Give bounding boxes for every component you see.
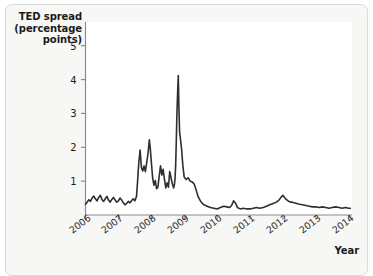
y-tick-label: 1 bbox=[59, 176, 77, 187]
y-tick-label: 3 bbox=[59, 108, 77, 119]
plot-background bbox=[86, 22, 353, 215]
y-tick-label: 4 bbox=[59, 74, 77, 85]
y-tick-label: 5 bbox=[59, 40, 77, 51]
y-tick-label: 2 bbox=[59, 142, 77, 153]
plot-canvas bbox=[86, 22, 353, 215]
